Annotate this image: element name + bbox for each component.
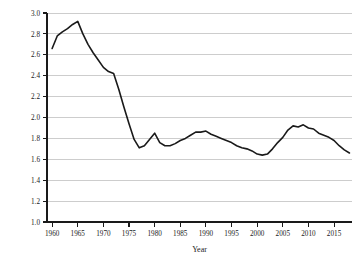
y-tick-label: 1.0 [31, 219, 40, 227]
y-tick-label: 2.4 [31, 72, 40, 80]
y-tick-label: 1.8 [31, 135, 40, 143]
x-tick-label: 1985 [173, 230, 188, 238]
x-tick-label: 1970 [96, 230, 111, 238]
y-tick-label: 1.6 [31, 156, 40, 164]
y-tick-label: 2.0 [31, 114, 40, 122]
x-tick-label: 1990 [199, 230, 214, 238]
chart-container: 1.01.21.41.61.82.02.22.42.62.83.0 196019… [0, 0, 363, 267]
y-tick-label: 1.2 [31, 198, 40, 206]
x-tick-label: 1980 [147, 230, 162, 238]
x-tick-label: 2005 [276, 230, 291, 238]
x-tick-label: 2000 [250, 230, 265, 238]
x-tick-label: 1975 [122, 230, 137, 238]
x-axis-title: Year [192, 245, 207, 254]
y-tick-label: 2.6 [31, 51, 40, 59]
gridlines [47, 13, 352, 222]
y-tick-label: 3.0 [31, 10, 40, 18]
data-line-total-fertility-rate [52, 21, 349, 155]
y-axis-tick-labels: 1.01.21.41.61.82.02.22.42.62.83.0 [31, 10, 40, 227]
y-tick-label: 2.8 [31, 31, 40, 39]
x-tick-label: 1995 [224, 230, 239, 238]
fertility-rate-line-chart: 1.01.21.41.61.82.02.22.42.62.83.0 196019… [0, 0, 363, 267]
y-tick-label: 1.4 [31, 177, 40, 185]
x-axis-tick-labels: 1960196519701975198019851990199520002005… [45, 230, 342, 238]
x-tick-label: 2015 [327, 230, 342, 238]
x-tick-label: 1960 [45, 230, 60, 238]
x-tick-label: 2010 [301, 230, 316, 238]
y-tick-label: 2.2 [31, 93, 40, 101]
x-tick-label: 1965 [71, 230, 86, 238]
